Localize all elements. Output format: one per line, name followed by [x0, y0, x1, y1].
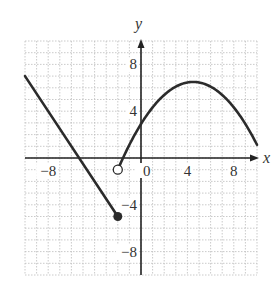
y-axis-label: y — [133, 15, 143, 33]
y-tick-label: 8 — [130, 56, 138, 72]
x-tick-label: 4 — [184, 163, 192, 179]
x-axis-arrow-icon — [250, 155, 259, 162]
function-graph: −804884−4−8 x y — [0, 0, 278, 283]
open-circle-icon — [113, 165, 122, 174]
y-tick-label: −8 — [121, 244, 137, 260]
x-tick-label: 0 — [143, 163, 151, 179]
x-tick-label: 8 — [230, 163, 238, 179]
y-axis-arrow-icon — [138, 39, 145, 48]
y-tick-label: −4 — [121, 197, 137, 213]
x-tick-label: −8 — [40, 163, 56, 179]
x-axis-label: x — [262, 149, 270, 166]
closed-dot-icon — [113, 212, 122, 221]
y-tick-label: 4 — [130, 103, 138, 119]
